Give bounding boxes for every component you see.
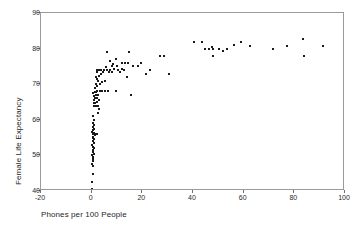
plot-frame	[40, 12, 344, 190]
data-point	[104, 80, 106, 82]
x-axis-title: Phones per 100 People	[41, 210, 127, 219]
data-point	[92, 122, 94, 124]
data-point	[101, 90, 103, 92]
data-point	[93, 153, 95, 155]
data-point	[302, 38, 304, 40]
data-point	[92, 126, 94, 128]
data-point	[127, 62, 129, 64]
data-point	[272, 48, 274, 50]
data-point	[109, 60, 111, 62]
y-axis-title: Female Life Expectancy	[14, 97, 23, 185]
x-axis-tick-label: 100	[324, 194, 358, 202]
data-point	[103, 69, 105, 71]
data-point	[92, 158, 94, 160]
data-point	[168, 73, 170, 75]
data-point	[149, 69, 151, 71]
data-point	[92, 156, 94, 158]
data-point	[201, 41, 203, 43]
data-point	[100, 69, 102, 71]
data-point	[98, 75, 100, 77]
x-axis-tick-mark	[192, 190, 193, 193]
data-point	[105, 66, 107, 68]
x-axis-tick-label: 80	[273, 194, 313, 202]
data-point	[113, 68, 115, 70]
data-point	[286, 45, 288, 47]
data-point	[91, 188, 93, 189]
data-point	[97, 94, 99, 96]
y-axis-tick-label: 90	[10, 9, 40, 16]
data-point	[145, 73, 147, 75]
data-point	[91, 144, 93, 146]
y-axis-tick-label: 40	[10, 187, 40, 194]
data-point	[240, 41, 242, 43]
data-point	[93, 147, 95, 149]
data-point	[249, 45, 251, 47]
data-point	[226, 48, 228, 50]
x-axis-tick-label: 20	[121, 194, 161, 202]
data-point	[222, 50, 224, 52]
data-point	[218, 48, 220, 50]
data-point	[106, 51, 108, 53]
data-point	[106, 69, 108, 71]
data-point	[104, 90, 106, 92]
data-point	[100, 73, 102, 75]
data-point	[163, 55, 165, 57]
data-point	[132, 65, 134, 67]
y-axis-tick-label: 60	[10, 116, 40, 123]
x-axis-tick-mark	[293, 190, 294, 193]
x-axis-tick-label: 0	[71, 194, 111, 202]
data-point	[111, 71, 113, 73]
data-point	[193, 41, 195, 43]
data-point	[93, 128, 95, 130]
x-axis-tick-mark	[141, 190, 142, 193]
data-point	[101, 81, 103, 83]
data-point	[212, 48, 214, 50]
data-point	[107, 90, 109, 92]
data-point	[92, 129, 94, 131]
data-point	[92, 160, 94, 162]
data-point	[97, 112, 99, 114]
data-point	[92, 149, 94, 151]
scatter-plot-figure: Female Life Expectancy Phones per 100 Pe…	[0, 0, 358, 228]
data-point	[115, 58, 117, 60]
data-point	[322, 45, 324, 47]
data-point	[91, 163, 93, 165]
data-point	[96, 97, 98, 99]
data-point	[108, 71, 110, 73]
data-point	[95, 76, 97, 78]
data-point	[126, 76, 128, 78]
data-point	[96, 78, 98, 80]
data-point	[130, 94, 132, 96]
data-point	[208, 48, 210, 50]
data-point	[92, 173, 94, 175]
data-point	[115, 90, 117, 92]
data-point	[99, 83, 101, 85]
data-point	[128, 51, 130, 53]
data-point	[95, 83, 97, 85]
y-axis-tick-label: 70	[10, 80, 40, 87]
data-point	[111, 65, 113, 67]
data-point	[93, 142, 95, 144]
data-point	[116, 65, 118, 67]
data-point	[96, 101, 98, 103]
data-point	[93, 99, 95, 101]
cropped-title-remnant	[150, 0, 330, 4]
x-axis-tick-label: -20	[20, 194, 60, 202]
plot-data-area	[41, 13, 343, 189]
data-point	[121, 62, 123, 64]
data-point	[92, 151, 94, 153]
x-axis-tick-label: 40	[172, 194, 212, 202]
y-axis-tick-label: 80	[10, 45, 40, 52]
data-point	[92, 136, 94, 138]
data-point	[92, 140, 94, 142]
data-point	[140, 62, 142, 64]
data-point	[119, 71, 121, 73]
data-point	[91, 154, 93, 156]
data-point	[204, 48, 206, 50]
data-point	[96, 71, 98, 73]
data-point	[97, 105, 99, 107]
data-point	[233, 44, 235, 46]
data-point	[137, 65, 139, 67]
data-point	[159, 55, 161, 57]
data-point	[93, 138, 95, 140]
